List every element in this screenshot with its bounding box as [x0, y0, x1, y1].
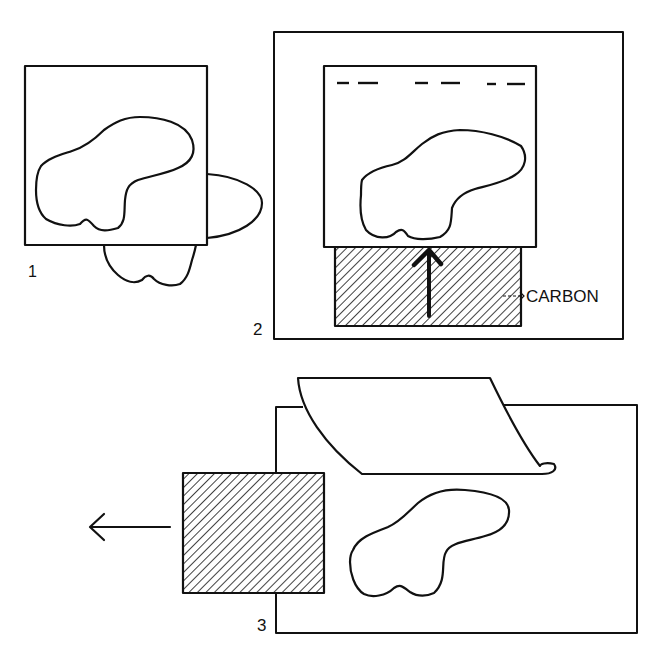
- carbon-label: CARBON: [526, 287, 599, 306]
- diagram-canvas: 1 CARBON 2 3: [0, 0, 651, 648]
- underlying-blob-bottom: [104, 245, 196, 285]
- tracing-sheet: [324, 66, 536, 247]
- panel-label-3: 3: [257, 616, 266, 635]
- transferred-shape: [350, 490, 509, 596]
- peeled-top-sheet: [298, 378, 555, 474]
- panel-label-1: 1: [28, 263, 37, 280]
- carbon-sheet: [183, 473, 324, 593]
- panel-label-2: 2: [253, 320, 262, 339]
- left-arrow-icon: [90, 514, 170, 540]
- panel-1: [25, 66, 262, 285]
- underlying-ellipse: [207, 174, 262, 238]
- panel-3: [183, 378, 637, 633]
- tracing-sheet: [25, 66, 207, 245]
